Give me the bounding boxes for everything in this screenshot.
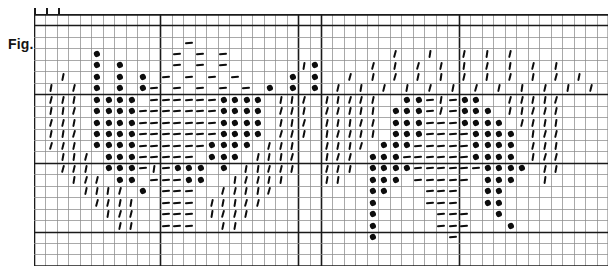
symbol-slash [95,199,99,207]
symbol-dot [472,96,480,104]
symbol-slash [84,187,88,195]
symbol-slash [72,107,76,115]
symbol-dot [380,165,388,173]
symbol-dash [460,224,468,227]
symbol-slash [371,119,375,127]
symbol-dash [426,190,434,193]
symbol-dot [403,96,411,104]
symbol-slash [336,142,340,150]
symbol-dash [208,76,216,79]
symbol-dash [426,179,434,182]
symbol-dot [116,153,124,161]
symbol-dot [484,176,492,184]
symbol-slash [348,107,352,115]
symbol-dash [414,144,422,147]
symbol-slash [153,164,156,172]
symbol-slash [325,96,329,104]
symbol-dot [507,153,515,161]
symbol-dash [173,110,181,113]
symbol-slash [61,73,65,81]
symbol-dot [484,107,492,115]
symbol-dot [220,142,228,150]
symbol-slash [336,119,340,127]
symbol-dot [403,107,411,115]
symbol-dash [185,41,193,44]
symbol-slash [61,96,65,104]
symbol-slash [508,50,512,58]
symbol-slash [555,142,559,150]
top-tick-mark [58,8,60,14]
symbol-slash [531,119,535,127]
symbol-dot [128,107,136,115]
top-tick-mark [46,8,48,14]
symbol-slash [290,107,294,115]
symbol-dash [426,156,434,159]
symbol-dash [173,53,181,56]
symbol-slash [302,119,306,127]
symbol-slash [577,73,581,81]
symbol-slash [72,119,76,127]
symbol-dash [162,156,170,159]
symbol-slash [325,119,329,127]
symbol-dot [243,142,251,150]
symbol-dot [484,199,492,207]
symbol-dash [150,87,158,90]
symbol-slash [61,142,65,150]
symbol-dash [162,179,170,182]
symbol-slash [336,96,340,104]
symbol-slash [72,84,76,92]
symbol-dot [392,165,400,173]
symbol-slash [72,164,76,172]
symbol-slash [210,199,214,207]
symbol-slash [440,61,444,69]
symbol-dot [254,96,262,104]
symbol-slash [520,96,524,104]
symbol-dash [139,110,147,113]
symbol-dot [220,119,228,127]
symbol-dash [449,179,457,182]
symbol-slash [107,199,111,207]
symbol-dot [105,130,113,138]
symbol-slash [290,142,294,150]
symbol-slash [61,164,65,172]
symbol-dot [392,153,400,161]
symbol-dash [173,144,181,147]
figure-root: Fig. 41 [0,0,612,273]
chart-symbol-layer [34,14,608,266]
symbol-dot [116,61,124,69]
symbol-dot [128,130,136,138]
symbol-slash [244,199,248,207]
symbol-dash [437,144,445,147]
symbol-slash [118,199,122,207]
symbol-slash [49,119,53,127]
symbol-dash [219,87,227,90]
symbol-slash [543,130,547,138]
symbol-slash [348,142,352,150]
symbol-slash [49,142,53,150]
symbol-dot [484,119,492,127]
symbol-slash [221,187,225,195]
symbol-dash [196,87,204,90]
symbol-slash [336,84,340,92]
symbol-dash [426,202,434,205]
symbol-slash [393,73,397,81]
symbol-dash [219,64,227,67]
symbol-dot [403,165,411,173]
symbol-dot [116,119,124,127]
symbol-dash [173,87,181,90]
symbol-slash [290,130,294,138]
symbol-dot [369,210,377,218]
symbol-dash [449,236,457,239]
symbol-dot [231,153,239,161]
symbol-slash [256,199,260,207]
symbol-dot [392,142,400,150]
symbol-slash [543,96,547,104]
symbol-dash [460,133,468,136]
symbol-dot [128,153,136,161]
symbol-dash [196,144,204,147]
symbol-dash [162,202,170,205]
symbol-dot [392,119,400,127]
symbol-dash [460,167,468,170]
symbol-slash [336,164,340,172]
symbol-dash [162,144,170,147]
